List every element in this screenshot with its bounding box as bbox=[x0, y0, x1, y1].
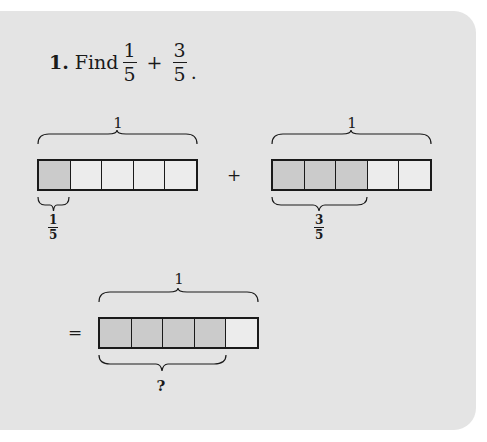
brace-top-first bbox=[37, 130, 198, 150]
bar-cell bbox=[226, 319, 257, 347]
brace-bottom-first bbox=[37, 196, 70, 212]
bar-cell bbox=[399, 161, 430, 189]
bar-cell-shaded bbox=[305, 161, 337, 189]
brace-bottom-second bbox=[271, 196, 368, 212]
bar-cell-shaded bbox=[39, 161, 71, 189]
bar-cell-shaded bbox=[132, 319, 164, 347]
bar-cell bbox=[102, 161, 134, 189]
fraction-one-fifth: 1 5 bbox=[123, 41, 137, 84]
brace-bottom-result bbox=[98, 354, 227, 372]
part-label-first: 1 5 bbox=[48, 214, 58, 241]
fraction-bar-first bbox=[37, 159, 198, 191]
fraction-bar-second bbox=[271, 159, 432, 191]
bar-cell bbox=[165, 161, 196, 189]
bar-cell bbox=[71, 161, 103, 189]
bar-cell bbox=[134, 161, 166, 189]
unknown-answer-label: ? bbox=[155, 377, 167, 395]
plus-operator: + bbox=[147, 51, 163, 73]
bar-cell-shaded bbox=[100, 319, 132, 347]
bar-cell-shaded bbox=[195, 319, 227, 347]
whole-label-result: 1 bbox=[173, 270, 185, 288]
bar-cell-shaded bbox=[273, 161, 305, 189]
fraction-bar-result bbox=[98, 317, 259, 349]
brace-top-result bbox=[98, 288, 259, 308]
plus-sign: + bbox=[227, 165, 241, 185]
problem-verb: Find bbox=[75, 51, 119, 73]
equals-sign: = bbox=[68, 322, 82, 342]
bar-cell-shaded bbox=[163, 319, 195, 347]
bar-cell bbox=[368, 161, 400, 189]
problem-number: 1. bbox=[49, 51, 69, 73]
problem-title: 1. Find 1 5 + 3 5 . bbox=[49, 37, 197, 87]
part-label-second: 3 5 bbox=[314, 214, 324, 241]
fraction-three-fifths: 3 5 bbox=[173, 41, 187, 84]
brace-top-second bbox=[271, 130, 432, 150]
bar-cell-shaded bbox=[336, 161, 368, 189]
period: . bbox=[191, 61, 197, 83]
